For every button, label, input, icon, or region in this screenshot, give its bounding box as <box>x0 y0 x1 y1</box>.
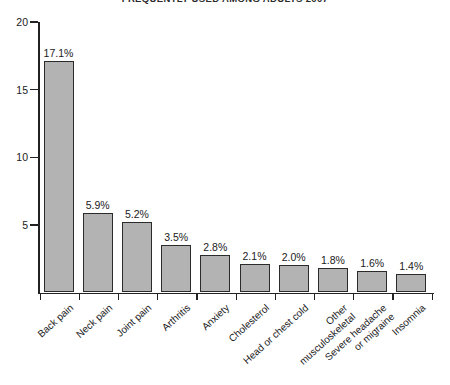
y-axis-line <box>38 22 40 294</box>
bar <box>279 265 309 292</box>
y-axis-tick-label: 15 <box>4 84 28 96</box>
bar-value-label: 5.2% <box>117 208 157 220</box>
x-axis-category-label-line: Arthritis <box>160 302 193 333</box>
bar <box>318 268 348 292</box>
bar <box>357 271 387 293</box>
x-axis-tick <box>236 294 237 300</box>
bar-value-label: 2.0% <box>274 251 314 263</box>
bar <box>200 255 230 293</box>
x-axis-tick <box>392 294 393 300</box>
x-axis-category-label-line: Insomnia <box>390 302 428 337</box>
y-axis-tick-label: 5 <box>4 219 28 231</box>
x-axis-tick <box>157 294 158 300</box>
x-axis-tick <box>196 294 197 300</box>
x-axis-tick <box>314 294 315 300</box>
x-axis-tick <box>275 294 276 300</box>
y-axis-tick-label: 20 <box>4 16 28 28</box>
bar-value-label: 1.6% <box>352 257 392 269</box>
x-axis-tick <box>432 294 433 300</box>
y-axis-tick <box>30 21 38 22</box>
bar <box>83 213 113 293</box>
chart-title: FREQUENTLY USED AMONG ADULTS 2007 <box>0 0 450 4</box>
bar <box>396 274 426 293</box>
x-axis-category-label-line: Joint pain <box>114 302 153 339</box>
y-axis-tick <box>30 224 38 225</box>
x-axis-tick <box>118 294 119 300</box>
bar <box>161 245 191 292</box>
bar-chart: FREQUENTLY USED AMONG ADULTS 2007 201510… <box>0 0 450 385</box>
bar-value-label: 3.5% <box>156 231 196 243</box>
bar-value-label: 2.1% <box>235 250 275 262</box>
x-axis-tick <box>353 294 354 300</box>
bar-value-label: 1.4% <box>391 260 431 272</box>
bar-value-label: 2.8% <box>195 241 235 253</box>
y-axis-tick <box>30 157 38 158</box>
x-axis-category-label-line: Anxiety <box>200 302 232 332</box>
bar <box>44 61 74 292</box>
bar <box>122 222 152 292</box>
bar <box>240 264 270 292</box>
x-axis-category-label-line: Back pain <box>35 302 75 340</box>
x-axis-tick <box>40 294 41 300</box>
x-axis-category-label-line: Neck pain <box>74 302 114 340</box>
x-axis-tick <box>79 294 80 300</box>
y-axis-tick <box>30 89 38 90</box>
bar-value-label: 17.1% <box>39 47 79 59</box>
y-axis-tick-label: 10 <box>4 151 28 163</box>
bar-value-label: 1.8% <box>313 254 353 266</box>
bar-value-label: 5.9% <box>78 199 118 211</box>
